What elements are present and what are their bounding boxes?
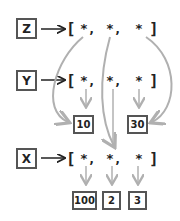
z-array-open-bracket: [ [66, 19, 76, 38]
y-array-open-bracket: [ [66, 71, 76, 90]
y-array-elem-0: *, [80, 73, 96, 88]
x-array-elem-2: * [135, 151, 143, 166]
z-array-close-bracket: ] [149, 19, 159, 38]
x-array-elem-0: *, [80, 151, 96, 166]
x-array-elem-1: *, [106, 151, 122, 166]
variable-y-label: Y [22, 74, 31, 88]
y-array-elem-1: *, [106, 73, 122, 88]
value-10-label: 10 [77, 119, 91, 130]
z-array-elem-0: *, [80, 21, 96, 36]
variable-z-box: Z [16, 18, 37, 39]
variable-x-box: X [16, 148, 37, 169]
value-box-100: 100 [72, 191, 97, 210]
x-array-close-bracket: ] [149, 149, 159, 168]
z-array-elem-1: *, [106, 21, 122, 36]
z-array-elem-2: * [135, 21, 143, 36]
value-2-label: 2 [108, 195, 115, 206]
value-box-10: 10 [73, 115, 94, 134]
variable-y-box: Y [16, 70, 37, 91]
value-box-30: 30 [127, 115, 148, 134]
y-array-elem-2: * [135, 73, 143, 88]
value-box-2: 2 [102, 191, 121, 210]
variable-x-label: X [22, 152, 31, 166]
x-array-open-bracket: [ [66, 149, 76, 168]
value-30-label: 30 [131, 119, 145, 130]
value-box-3: 3 [128, 191, 147, 210]
variable-z-label: Z [22, 22, 31, 36]
value-3-label: 3 [134, 195, 141, 206]
y-array-close-bracket: ] [149, 71, 159, 90]
z1-to-x-array-curve [102, 37, 114, 146]
value-100-label: 100 [74, 195, 95, 206]
